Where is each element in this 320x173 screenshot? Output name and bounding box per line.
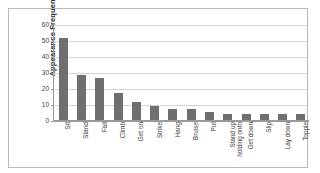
- gridline: [54, 25, 309, 26]
- bar: [150, 106, 159, 120]
- bar: [77, 75, 86, 120]
- y-axis: 0102030405060: [9, 25, 51, 121]
- gridline: [54, 73, 309, 74]
- bar: [114, 93, 123, 120]
- bar: [296, 114, 305, 120]
- x-axis-tick-label: Bruise: [193, 122, 200, 173]
- bar: [242, 114, 251, 120]
- bar: [168, 109, 177, 120]
- gridline: [54, 41, 309, 42]
- bar: [205, 112, 214, 120]
- y-axis-tick-label: 20: [42, 86, 49, 93]
- x-axis-tick-label: Slip: [266, 122, 273, 173]
- bar: [59, 38, 68, 120]
- x-axis-tick-label: Topple: [303, 122, 310, 173]
- bar: [278, 114, 287, 120]
- x-axis-tick-label: Hang: [175, 122, 182, 173]
- bar: [223, 114, 232, 120]
- gridline: [54, 57, 309, 58]
- chart-frame: Appearance Frequency 0102030405060 SitSt…: [8, 8, 308, 168]
- bar: [95, 78, 104, 120]
- bar: [187, 109, 196, 120]
- gridline: [54, 89, 309, 90]
- y-axis-tick-label: 40: [42, 54, 49, 61]
- x-axis-tick-label: Get down: [248, 122, 255, 173]
- y-axis-tick-label: 30: [42, 70, 49, 77]
- x-axis-tick-label: Climb: [120, 122, 127, 173]
- x-axis-tick-label: Get on: [138, 122, 145, 173]
- x-axis-labels: SitStandFallClimbGet onStrikeHangBruiseP…: [53, 122, 309, 173]
- y-axis-tick-label: 60: [42, 22, 49, 29]
- y-axis-tick-label: 0: [45, 118, 49, 125]
- x-axis-tick-label: Stand up holding onto: [230, 122, 243, 173]
- x-axis-tick-label: Put: [211, 122, 218, 173]
- gridline: [54, 105, 309, 106]
- x-axis-tick-label: Strike: [157, 122, 164, 173]
- y-axis-tick-label: 10: [42, 102, 49, 109]
- plot-area: [53, 25, 309, 121]
- bar: [260, 114, 269, 120]
- x-axis-tick-label: Stand: [83, 122, 90, 173]
- bar: [132, 102, 141, 120]
- y-axis-tick-label: 50: [42, 38, 49, 45]
- x-axis-tick-label: Lay down: [285, 122, 292, 173]
- x-axis-tick-label: Fall: [102, 122, 109, 173]
- x-axis-tick-label: Sit: [65, 122, 72, 173]
